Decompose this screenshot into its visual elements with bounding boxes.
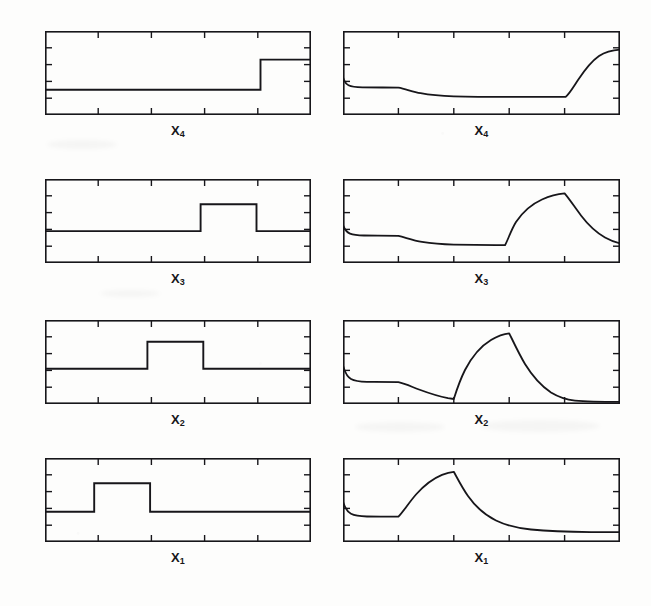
label-sub: 4 <box>180 129 185 139</box>
axis-ticks <box>46 180 310 262</box>
plot-frame <box>46 180 310 262</box>
data-series-x1-response <box>343 472 620 532</box>
label-sub: 2 <box>483 418 488 428</box>
label-main: X <box>171 550 180 565</box>
data-series-x4-input <box>45 60 311 90</box>
label-main: X <box>474 123 483 138</box>
plot-x3-response <box>343 179 620 263</box>
panel-label-x2-response: X2 <box>343 412 620 427</box>
panel-x2-response: X2 <box>343 320 620 404</box>
plot-frame <box>344 32 619 114</box>
plot-frame <box>344 321 619 403</box>
plot-frame <box>46 459 310 541</box>
plot-frame <box>344 180 619 262</box>
data-series-x4-response <box>343 50 620 97</box>
data-series-x3-input <box>45 204 311 231</box>
axis-ticks <box>344 321 619 403</box>
label-sub: 2 <box>180 418 185 428</box>
data-series-x2-response <box>343 333 620 402</box>
scan-smudge <box>100 290 160 297</box>
data-series-x3-response <box>343 193 620 245</box>
panel-x4-input: X4 <box>45 31 311 115</box>
plot-frame <box>46 321 310 403</box>
plot-x4-response <box>343 31 620 115</box>
label-main: X <box>474 550 483 565</box>
label-main: X <box>171 412 180 427</box>
label-sub: 3 <box>180 277 185 287</box>
panel-label-x1-input: X1 <box>45 550 311 565</box>
data-series-x1-input <box>45 483 311 512</box>
plot-frame <box>46 32 310 114</box>
plot-x2-response <box>343 320 620 404</box>
panel-label-x3-input: X3 <box>45 271 311 286</box>
plot-x1-response <box>343 458 620 542</box>
panel-x4-response: X4 <box>343 31 620 115</box>
plot-x4-input <box>45 31 311 115</box>
axis-ticks <box>344 459 619 541</box>
axis-ticks <box>344 32 619 114</box>
label-sub: 1 <box>483 556 488 566</box>
axis-ticks <box>344 180 619 262</box>
data-series-x2-input <box>45 342 311 369</box>
panel-x3-response: X3 <box>343 179 620 263</box>
panel-label-x4-response: X4 <box>343 123 620 138</box>
panel-x3-input: X3 <box>45 179 311 263</box>
figure-panel-grid: X4 X4 <box>0 0 651 606</box>
panel-x1-input: X1 <box>45 458 311 542</box>
axis-ticks <box>46 32 310 114</box>
panel-x1-response: X1 <box>343 458 620 542</box>
label-sub: 3 <box>483 277 488 287</box>
label-main: X <box>474 412 483 427</box>
axis-ticks <box>46 321 310 403</box>
plot-x1-input <box>45 458 311 542</box>
plot-x2-input <box>45 320 311 404</box>
panel-x2-input: X2 <box>45 320 311 404</box>
panel-label-x3-response: X3 <box>343 271 620 286</box>
panel-label-x1-response: X1 <box>343 550 620 565</box>
label-sub: 1 <box>180 556 185 566</box>
label-main: X <box>171 271 180 286</box>
panel-label-x2-input: X2 <box>45 412 311 427</box>
label-main: X <box>171 123 180 138</box>
label-main: X <box>474 271 483 286</box>
scan-smudge <box>47 140 117 149</box>
axis-ticks <box>46 459 310 541</box>
panel-label-x4-input: X4 <box>45 123 311 138</box>
plot-frame <box>344 459 619 541</box>
label-sub: 4 <box>483 129 488 139</box>
plot-x3-input <box>45 179 311 263</box>
